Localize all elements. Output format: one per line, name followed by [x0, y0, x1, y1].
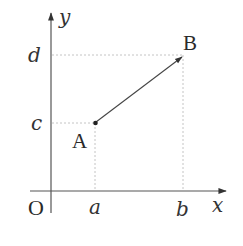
tick-label-b: b	[176, 197, 189, 221]
origin-label: O	[28, 195, 44, 220]
y-axis-label: y	[58, 5, 71, 29]
point-a-label: A	[72, 129, 88, 153]
vector-ab	[96, 57, 182, 122]
coordinate-diagram: y x O d c a b A B	[0, 0, 243, 246]
x-axis-label: x	[212, 193, 223, 217]
tick-label-c: c	[31, 111, 42, 135]
point-b-label: B	[183, 31, 197, 55]
tick-label-d: d	[28, 43, 41, 67]
tick-label-a: a	[89, 195, 101, 219]
point-a-dot	[93, 121, 98, 126]
